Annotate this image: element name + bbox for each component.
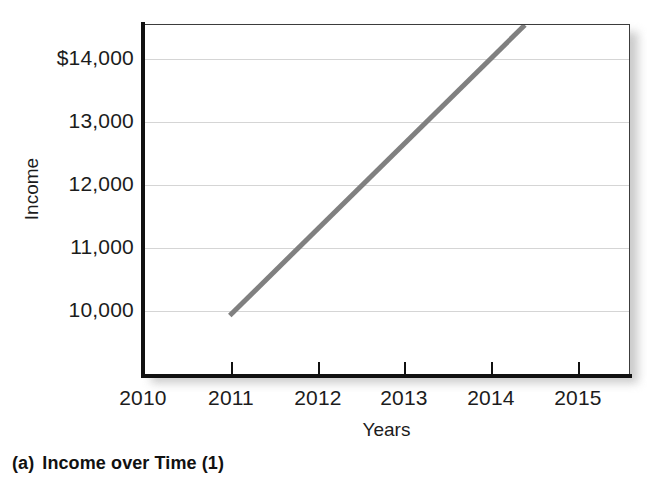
x-axis-title: Years <box>143 419 630 441</box>
x-tick-2014 <box>491 362 493 375</box>
plot-area <box>143 24 630 375</box>
x-tick-label-2011: 2011 <box>208 386 254 410</box>
x-axis-line <box>141 374 632 378</box>
x-tick-2012 <box>318 362 320 375</box>
x-tick-label-2015: 2015 <box>554 386 602 410</box>
x-tick-2015 <box>578 362 580 375</box>
y-tick-label-13000: 13,000 <box>69 109 134 133</box>
series-layer <box>143 25 629 375</box>
y-axis-line <box>141 22 145 378</box>
y-axis-title: Income <box>21 134 43 244</box>
figure-caption: (a)Income over Time (1) <box>12 453 224 474</box>
figure-income-over-time: $14,000 13,000 12,000 11,000 10,000 2010… <box>0 0 670 500</box>
y-tick-label-10000: 10,000 <box>69 298 134 322</box>
x-tick-label-2010: 2010 <box>119 386 167 410</box>
x-tick-2013 <box>404 362 406 375</box>
x-tick-2011 <box>231 362 233 375</box>
x-tick-label-2014: 2014 <box>467 386 515 410</box>
y-tick-label-12000: 12,000 <box>69 172 134 196</box>
data-line-income <box>230 25 525 316</box>
y-tick-label-14000: $14,000 <box>57 46 134 70</box>
y-tick-label-11000: 11,000 <box>70 235 134 259</box>
caption-text: Income over Time (1) <box>42 453 224 473</box>
x-tick-label-2013: 2013 <box>380 386 428 410</box>
caption-tag: (a) <box>12 453 34 473</box>
x-tick-label-2012: 2012 <box>294 386 342 410</box>
